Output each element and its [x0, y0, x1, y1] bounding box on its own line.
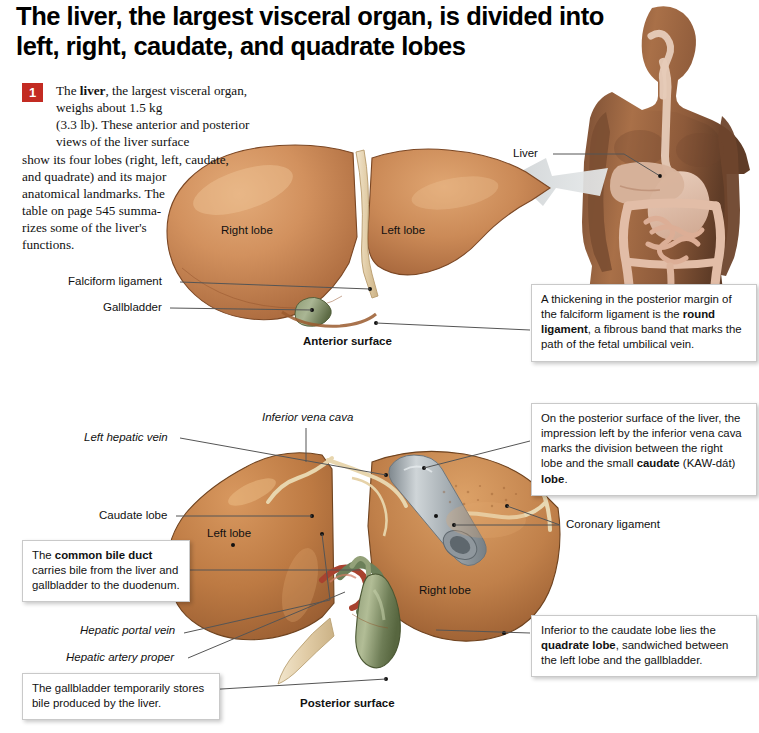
label-left-lobe-anterior: Left lobe [381, 224, 425, 236]
page-title: The liver, the largest visceral organ, i… [16, 2, 616, 62]
label-falciform-ligament: Falciform ligament [68, 275, 162, 287]
intro-line-4: and quadrate) and its major [22, 168, 280, 185]
label-hepatic-artery-proper: Hepatic artery proper [66, 651, 174, 663]
label-gallbladder: Gallbladder [103, 301, 162, 313]
label-hepatic-portal-vein: Hepatic portal vein [80, 624, 175, 636]
intro-line-5: anatomical landmarks. The [22, 185, 280, 202]
caption-anterior-surface: Anterior surface [303, 335, 392, 347]
intro-line-8: functions. [22, 236, 280, 253]
callout-caudate-lobe: On the posterior surface of the liver, t… [531, 403, 757, 496]
callout-gallbladder-function: The gallbladder temporarily stores bile … [22, 673, 220, 720]
label-left-hepatic-vein: Left hepatic vein [84, 431, 168, 443]
callout-quadrate-lobe: Inferior to the caudate lobe lies the qu… [531, 615, 757, 677]
label-liver-torso: Liver [513, 147, 538, 159]
label-right-lobe-posterior: Right lobe [419, 584, 471, 596]
intro-line-3: show its four lobes (right, left, caudat… [22, 151, 280, 168]
callout-round-ligament: A thickening in the posterior margin of … [531, 284, 757, 362]
callout-common-bile-duct: The common bile duct carries bile from t… [22, 540, 190, 602]
intro-line-2: (3.3 lb). These anterior and posterior v… [22, 116, 280, 150]
intro-line-1: The liver, the largest visceral organ, w… [22, 82, 280, 116]
label-inferior-vena-cava: Inferior vena cava [262, 411, 353, 423]
label-caudate-lobe: Caudate lobe [99, 509, 167, 521]
caption-posterior-surface: Posterior surface [300, 697, 395, 709]
label-left-lobe-posterior: Left lobe [207, 527, 251, 539]
label-coronary-ligament: Coronary ligament [566, 518, 660, 530]
intro-line-6: table on page 545 summa- [22, 202, 280, 219]
figure-root: The liver, the largest visceral organ, i… [0, 0, 759, 733]
posterior-liver [167, 451, 560, 684]
label-right-lobe-anterior: Right lobe [221, 224, 273, 236]
